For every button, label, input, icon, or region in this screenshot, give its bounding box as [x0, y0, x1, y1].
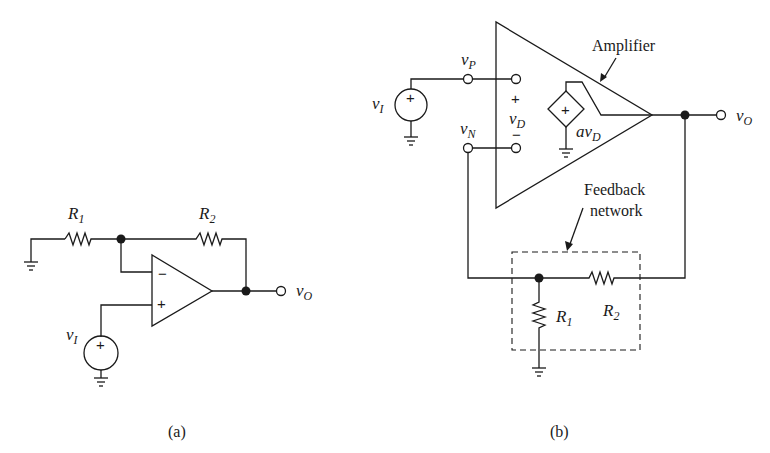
figure-b-amplifier-model: + + vD − + avD vO — [372, 22, 753, 441]
ground-symbol-a2 — [94, 378, 108, 386]
dep-source-plus-sign: + — [561, 101, 570, 118]
wire-vi-to-vp — [411, 79, 464, 89]
terminal-vp-inner — [512, 75, 521, 84]
label-vi-b: vI — [372, 94, 385, 116]
label-r2-a: R2 — [198, 204, 215, 226]
terminal-vn-inner — [512, 144, 521, 153]
wire-vn-to-feedback — [468, 152, 539, 278]
label-vp: vP — [461, 50, 477, 72]
arrow-amplifier — [604, 58, 616, 78]
arrow-feedback — [570, 208, 583, 244]
wire-ground-r1 — [31, 239, 65, 262]
label-feedback: Feedback — [584, 181, 645, 198]
label-amplifier: Amplifier — [592, 37, 656, 55]
junction-node-output-b — [681, 111, 690, 120]
ground-symbol-a1 — [24, 262, 38, 270]
label-r1-a: R1 — [67, 204, 84, 226]
resistor-r1-a — [65, 233, 121, 245]
label-r2-b: R2 — [602, 301, 619, 323]
source-plus-sign-b: + — [406, 89, 415, 106]
ground-symbol-b1 — [404, 137, 418, 145]
label-vi-a: vI — [66, 325, 79, 347]
minus-sign: − — [158, 265, 167, 282]
ground-symbol-b3 — [532, 368, 546, 376]
terminal-vp-outer — [464, 75, 473, 84]
label-vo-b: vO — [736, 106, 753, 128]
plus-sign: + — [157, 295, 166, 312]
junction-node-output-a — [242, 287, 251, 296]
caption-b: (b) — [550, 423, 569, 441]
wire-noninverting-input — [101, 305, 152, 337]
vd-plus-sign: + — [511, 90, 520, 107]
wire-inverting-input — [121, 239, 152, 272]
label-vo-a: vO — [296, 281, 313, 303]
resistor-r2-a — [121, 233, 246, 291]
resistor-r1-b — [533, 278, 545, 368]
arrowhead-feedback-icon — [565, 241, 573, 251]
terminal-vn-outer — [464, 144, 473, 153]
output-terminal-a — [277, 287, 286, 296]
label-avd: avD — [576, 122, 601, 144]
figure-a-noninverting-amplifier: − + + R1 R2 vI vO (a) — [24, 204, 313, 441]
label-network: network — [590, 202, 642, 219]
label-vn: vN — [460, 119, 477, 141]
caption-a: (a) — [168, 423, 186, 441]
vd-minus-sign: − — [512, 126, 521, 143]
feedback-network-box — [512, 252, 640, 350]
circuit-diagrams: − + + R1 R2 vI vO (a) + — [0, 0, 770, 453]
label-r1-b: R1 — [555, 307, 572, 329]
output-terminal-b — [717, 111, 726, 120]
wire-dep-source-output — [566, 82, 652, 115]
ground-symbol-b2 — [559, 149, 573, 157]
source-plus-sign: + — [96, 336, 105, 353]
